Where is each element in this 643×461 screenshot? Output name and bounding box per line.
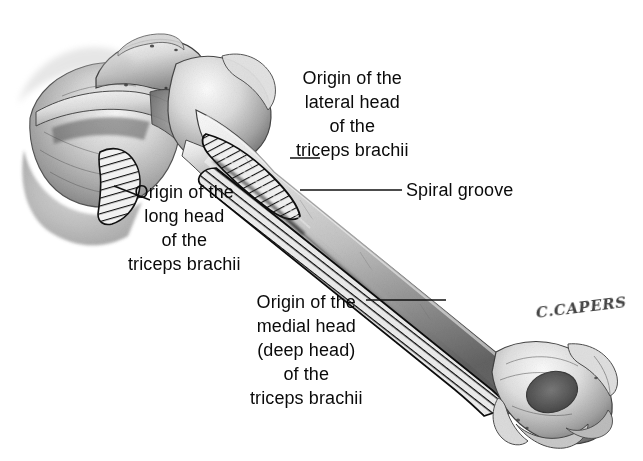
label-spiral-groove: Spiral groove (406, 178, 513, 202)
label-line: of the (128, 228, 241, 252)
label-line: of the (296, 114, 409, 138)
label-line: triceps brachii (128, 252, 241, 276)
label-lateral-head-origin: Origin of the lateral head of the tricep… (296, 66, 409, 162)
label-line: medial head (250, 314, 363, 338)
label-line: of the (250, 362, 363, 386)
anatomical-figure: Origin of the lateral head of the tricep… (0, 0, 643, 461)
distal-humerus (492, 342, 617, 449)
label-line: triceps brachii (296, 138, 409, 162)
label-line: triceps brachii (250, 386, 363, 410)
label-line: lateral head (296, 90, 409, 114)
label-line: Spiral groove (406, 178, 513, 202)
label-line: Origin of the (128, 180, 241, 204)
label-medial-head-origin: Origin of the medial head (deep head) of… (250, 290, 363, 410)
label-line: Origin of the (250, 290, 363, 314)
label-line: (deep head) (250, 338, 363, 362)
label-line: Origin of the (296, 66, 409, 90)
label-long-head-origin: Origin of the long head of the triceps b… (128, 180, 241, 276)
label-line: long head (128, 204, 241, 228)
